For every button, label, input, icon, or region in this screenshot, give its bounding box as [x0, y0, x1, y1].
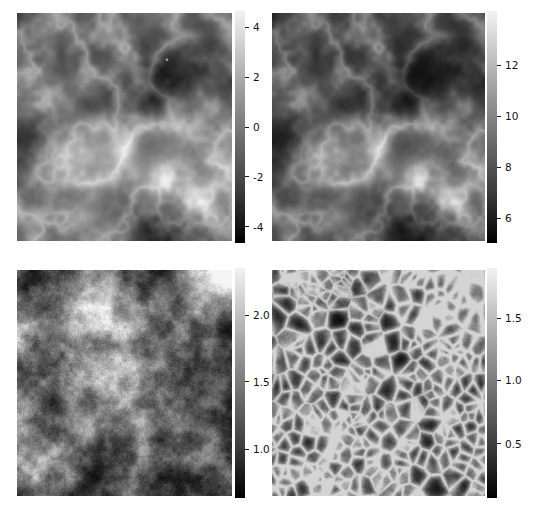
- panel-bottom-left: 2.01.51.0: [17, 268, 305, 498]
- heatmap-image-top-left: [17, 13, 232, 241]
- tick-mark-icon: [245, 27, 249, 28]
- heatmap-image-bottom-right: [272, 270, 485, 496]
- colorbar-tick-label: 1.5: [253, 376, 270, 387]
- colorbar-top-left: 420-2-4: [235, 11, 245, 243]
- tick-mark-icon: [245, 449, 249, 450]
- colorbar-tick-label: 12: [505, 60, 518, 71]
- colorbar-ticks-bottom-right: 1.51.00.5: [497, 268, 533, 498]
- colorbar-tick-label: 0.5: [505, 438, 522, 449]
- colorbar-tick-label: -4: [253, 221, 263, 232]
- panel-top-right: 121086: [272, 11, 533, 243]
- heatmap-image-bottom-left: [17, 270, 232, 496]
- colorbar-gradient-bottom-right: [487, 268, 497, 498]
- tick-mark-icon: [497, 167, 501, 168]
- colorbar-tick-label: 1.5: [505, 313, 522, 324]
- colorbar-tick-label: 10: [505, 111, 518, 122]
- colorbar-top-right: 121086: [487, 11, 497, 243]
- panel-bottom-right: 1.51.00.5: [272, 268, 533, 498]
- panel-top-left: 420-2-4: [17, 11, 305, 243]
- colorbar-ticks-top-right: 121086: [497, 11, 533, 243]
- tick-mark-icon: [497, 318, 501, 319]
- tick-mark-icon: [245, 226, 249, 227]
- colorbar-tick-label: 6: [505, 213, 512, 224]
- tick-mark-icon: [497, 116, 501, 117]
- colorbar-tick-label: 8: [505, 162, 512, 173]
- colorbar-tick-label: 2: [253, 71, 260, 82]
- colorbar-tick-label: 1.0: [253, 444, 270, 455]
- tick-mark-icon: [245, 176, 249, 177]
- colorbar-gradient-top-left: [235, 11, 245, 243]
- colorbar-tick-label: 2.0: [253, 309, 270, 320]
- heatmap-image-top-right: [272, 13, 485, 241]
- colorbar-tick-label: 4: [253, 21, 260, 32]
- figure-canvas: 420-2-4 121086 2.01.51.0 1.51.00.5: [0, 0, 533, 514]
- tick-mark-icon: [245, 127, 249, 128]
- colorbar-gradient-bottom-left: [235, 268, 245, 498]
- tick-mark-icon: [245, 77, 249, 78]
- tick-mark-icon: [497, 65, 501, 66]
- colorbar-tick-label: 0: [253, 121, 260, 132]
- tick-mark-icon: [497, 443, 501, 444]
- colorbar-bottom-right: 1.51.00.5: [487, 268, 497, 498]
- colorbar-tick-label: -2: [253, 171, 263, 182]
- colorbar-bottom-left: 2.01.51.0: [235, 268, 245, 498]
- colorbar-tick-label: 1.0: [505, 375, 522, 386]
- tick-mark-icon: [497, 218, 501, 219]
- tick-mark-icon: [245, 315, 249, 316]
- tick-mark-icon: [245, 381, 249, 382]
- tick-mark-icon: [497, 380, 501, 381]
- colorbar-gradient-top-right: [487, 11, 497, 243]
